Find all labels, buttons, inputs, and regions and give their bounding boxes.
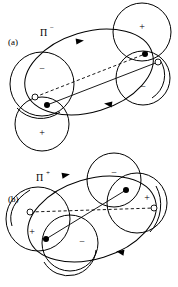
- panel-b-open-dot-right: [151, 205, 157, 211]
- panel-b-arrowhead-top: [62, 171, 71, 178]
- panel-a-filled-dot-right: [142, 51, 148, 57]
- panel-b-sign-top: −: [111, 167, 117, 178]
- panel-b-sign-bottom: −: [79, 236, 85, 247]
- panel-b-label: (b): [8, 194, 19, 204]
- panel-a-sign-left: −: [39, 63, 45, 74]
- panel-a-arrowhead-top: [76, 37, 85, 44]
- panel-b-pi-superscript: +: [46, 169, 50, 177]
- panel-a-orbit-overlap-right: [152, 60, 165, 98]
- panel-a-circle-bottom-left-plus: [15, 97, 69, 151]
- panel-a-sign-bottom-left: +: [39, 127, 45, 138]
- figure-canvas: + − − + (a) Π − − + + −: [0, 0, 178, 287]
- panel-a-label: (a): [8, 37, 18, 47]
- physics-figure: + − − + (a) Π − − + + −: [0, 0, 178, 287]
- panel-a: + − − + (a) Π −: [8, 3, 171, 151]
- panel-a-arrowhead-bottom: [104, 100, 113, 107]
- panel-b-filled-dot-right: [123, 187, 129, 193]
- panel-b-open-dot-left: [27, 209, 33, 215]
- panel-b-sign-right: +: [144, 192, 150, 203]
- panel-b-circle-right-plus: [107, 173, 167, 233]
- panel-b-orbit-overlap-bottom: [44, 250, 96, 276]
- panel-a-circle-right-minus: [116, 51, 170, 105]
- panel-b-sign-left: +: [29, 226, 35, 237]
- panel-b: − + + − (b) Π +: [6, 153, 167, 277]
- panel-a-sign-right: −: [140, 81, 146, 92]
- panel-a-filled-dot-left: [44, 102, 50, 108]
- panel-a-dipole-axis: [35, 54, 145, 97]
- panel-b-filled-dot-left: [43, 236, 49, 242]
- panel-a-pi-superscript: −: [50, 24, 54, 32]
- panel-a-open-dot-right: [155, 59, 161, 65]
- panel-a-open-dot-left: [32, 94, 38, 100]
- panel-a-pi-symbol: Π: [40, 27, 47, 38]
- panel-b-dipole-axis: [30, 208, 154, 212]
- panel-b-solid-axis: [46, 190, 126, 239]
- panel-a-sign-top-right: +: [139, 21, 145, 32]
- panel-b-pi-symbol: Π: [36, 172, 43, 183]
- panel-a-circle-left-minus: [10, 52, 74, 116]
